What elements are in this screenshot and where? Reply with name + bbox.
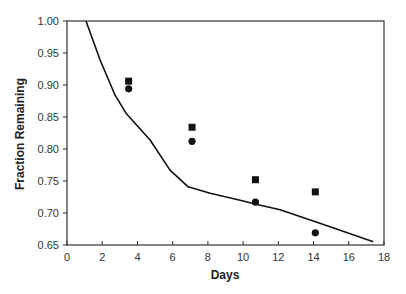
circle-marker bbox=[252, 199, 259, 206]
square-marker bbox=[252, 176, 259, 183]
y-tick-label: 0.65 bbox=[38, 239, 59, 251]
y-tick-label: 1.00 bbox=[38, 15, 59, 27]
circle-marker bbox=[125, 85, 132, 92]
y-tick-label: 0.70 bbox=[38, 207, 59, 219]
y-tick-label: 0.95 bbox=[38, 47, 59, 59]
circle-marker bbox=[188, 138, 195, 145]
curve-line bbox=[86, 21, 373, 242]
x-tick-label: 10 bbox=[237, 251, 249, 263]
model-curve bbox=[86, 21, 373, 242]
x-tick-label: 16 bbox=[343, 251, 355, 263]
x-tick-label: 12 bbox=[272, 251, 284, 263]
chart: 0.650.700.750.800.850.900.951.00 0246810… bbox=[0, 0, 406, 294]
y-axis: 0.650.700.750.800.850.900.951.00 bbox=[38, 15, 67, 251]
x-axis: 024681012141618 bbox=[64, 241, 390, 263]
y-axis-title: Fraction Remaining bbox=[13, 78, 27, 190]
x-tick-label: 14 bbox=[307, 251, 319, 263]
square-marker bbox=[125, 78, 132, 85]
plot-border bbox=[67, 21, 384, 245]
y-tick-label: 0.80 bbox=[38, 143, 59, 155]
y-tick-label: 0.90 bbox=[38, 79, 59, 91]
x-tick-label: 8 bbox=[205, 251, 211, 263]
x-tick-label: 4 bbox=[134, 251, 140, 263]
x-tick-label: 6 bbox=[170, 251, 176, 263]
square-markers bbox=[125, 78, 319, 196]
circle-marker bbox=[312, 229, 319, 236]
x-tick-label: 18 bbox=[378, 251, 390, 263]
square-marker bbox=[312, 188, 319, 195]
x-tick-label: 0 bbox=[64, 251, 70, 263]
square-marker bbox=[189, 124, 196, 131]
x-axis-title: Days bbox=[211, 268, 240, 282]
x-tick-label: 2 bbox=[99, 251, 105, 263]
y-tick-label: 0.85 bbox=[38, 111, 59, 123]
plot-frame bbox=[67, 21, 384, 245]
y-tick-label: 0.75 bbox=[38, 175, 59, 187]
